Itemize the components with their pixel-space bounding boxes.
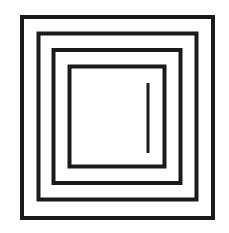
nested-squares-diagram (0, 0, 229, 233)
